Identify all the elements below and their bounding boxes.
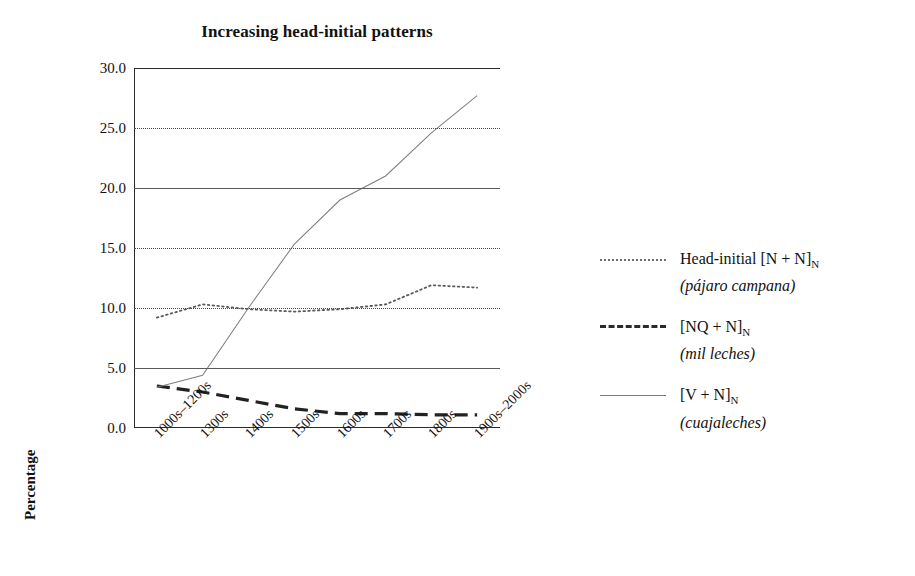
legend-label-subscript: N xyxy=(811,258,819,270)
legend-label-text: Head-initial [N + N] xyxy=(680,250,811,267)
legend-item: [V + N]N(cuajaleches) xyxy=(600,384,910,432)
y-tick-label: 5.0 xyxy=(66,360,126,377)
x-axis-tick-labels: 1000s–1200s1300s1400s1500s1600s1700s1800… xyxy=(134,430,534,570)
legend-label-text: [NQ + N] xyxy=(680,318,742,335)
gridline xyxy=(134,128,500,129)
legend-item: [NQ + N]N(mil leches) xyxy=(600,316,910,364)
y-tick-label: 20.0 xyxy=(66,180,126,197)
legend-label-line1: [NQ + N]N xyxy=(680,316,910,343)
legend-item-label: [V + N]N(cuajaleches) xyxy=(680,384,910,432)
legend-item-label: [NQ + N]N(mil leches) xyxy=(680,316,910,364)
legend-label-line1: Head-initial [N + N]N xyxy=(680,248,910,275)
legend-label-subscript: N xyxy=(742,326,750,338)
chart-figure: Increasing head-initial patterns Percent… xyxy=(0,0,915,576)
legend-label-line2: (pájaro campana) xyxy=(680,275,910,296)
gridline xyxy=(134,248,500,249)
y-tick-label: 30.0 xyxy=(66,60,126,77)
thin-line-sample xyxy=(600,395,666,402)
dashed-line-sample xyxy=(600,325,666,334)
y-axis-label-wrapper: Percentage xyxy=(10,330,11,331)
legend-item: Head-initial [N + N]N(pájaro campana) xyxy=(600,248,910,296)
legend-label-line2: (cuajaleches) xyxy=(680,412,910,433)
legend-label-subscript: N xyxy=(731,395,739,407)
gridline xyxy=(134,308,500,309)
y-axis-label: Percentage xyxy=(22,380,39,520)
legend-label-line2: (mil leches) xyxy=(680,343,910,364)
chart-legend: Head-initial [N + N]N(pájaro campana)[NQ… xyxy=(600,248,910,453)
gridline xyxy=(134,368,500,369)
dotted-line-sample xyxy=(600,259,666,267)
legend-label-line1: [V + N]N xyxy=(680,384,910,411)
y-tick-label: 0.0 xyxy=(66,420,126,437)
legend-item-label: Head-initial [N + N]N(pájaro campana) xyxy=(680,248,910,296)
y-tick-label: 25.0 xyxy=(66,120,126,137)
legend-label-text: [V + N] xyxy=(680,386,731,403)
y-tick-label: 10.0 xyxy=(66,300,126,317)
gridline xyxy=(134,188,500,189)
chart-title: Increasing head-initial patterns xyxy=(134,22,500,42)
y-tick-label: 15.0 xyxy=(66,240,126,257)
plot-area xyxy=(134,68,500,428)
y-axis-tick-labels: 30.025.020.015.010.05.00.0 xyxy=(62,68,126,428)
